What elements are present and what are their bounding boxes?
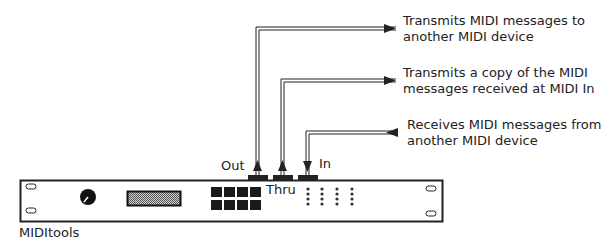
midi-device-panel (21, 175, 443, 222)
in-port-label: In (319, 156, 331, 171)
knob-icon (80, 189, 96, 205)
thru-connection-line (278, 76, 396, 176)
arrow-up-icon (278, 160, 287, 171)
in-port (298, 175, 318, 181)
out-port (248, 175, 268, 181)
lcd-display (128, 192, 181, 206)
arrow-right-icon (384, 76, 396, 85)
out-description: Transmits MIDI messages to another MIDI … (403, 13, 585, 45)
thru-port-label: Thru (266, 182, 296, 197)
in-description: Receives MIDI messages from another MIDI… (407, 117, 601, 149)
arrow-up-icon (253, 160, 262, 171)
arrow-right-icon (384, 24, 396, 33)
out-port-label: Out (221, 158, 245, 173)
in-connection-line (303, 128, 398, 176)
arrow-left-icon (386, 128, 398, 137)
thru-port (273, 175, 293, 181)
arrow-down-icon (303, 161, 312, 172)
out-connection-line (253, 24, 396, 176)
device-name-label: MIDItools (19, 225, 79, 240)
thru-description: Transmits a copy of the MIDI messages re… (403, 65, 595, 97)
